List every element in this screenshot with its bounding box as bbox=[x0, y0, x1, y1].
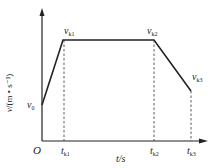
point-label-vk3: vk3 bbox=[192, 72, 202, 83]
point-label-v0: v0 bbox=[27, 100, 34, 111]
point-label-vk1: vk1 bbox=[64, 26, 74, 37]
vt-graph bbox=[0, 0, 216, 168]
origin-label: O bbox=[33, 145, 41, 156]
x-axis-label: t/s bbox=[116, 154, 125, 164]
tick-label-tk1: tk1 bbox=[61, 146, 70, 157]
y-axis-label: v/(m • s⁻¹) bbox=[4, 74, 14, 112]
y-axis-arrow-icon bbox=[40, 8, 45, 16]
tick-label-tk2: tk2 bbox=[150, 146, 159, 157]
x-axis-arrow-icon bbox=[199, 139, 208, 144]
tick-label-tk3: tk3 bbox=[187, 146, 196, 157]
point-label-vk2: vk2 bbox=[147, 26, 157, 37]
